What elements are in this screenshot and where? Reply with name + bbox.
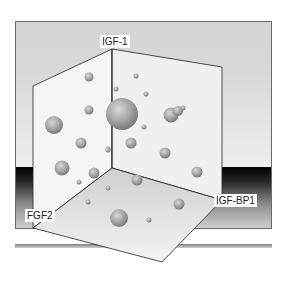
- 3d-scatter-diagram: [0, 0, 287, 282]
- axis-label-fgf2: FGF2: [25, 209, 55, 222]
- axis-label-igf-bp1: IGF-BP1: [214, 194, 257, 207]
- axis-label-igf-1: IGF-1: [100, 35, 130, 48]
